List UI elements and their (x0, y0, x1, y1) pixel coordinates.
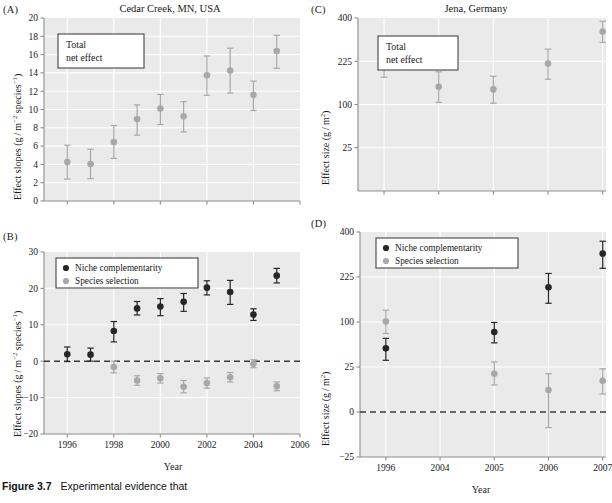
y-tick-label: 25 (345, 362, 355, 372)
data-point (273, 383, 280, 390)
panel-b-ylabel: Effect slopes (g / m−2 species−1) (12, 311, 23, 437)
y-tick-label: −25 (339, 452, 354, 462)
data-point (204, 380, 211, 387)
data-point (250, 360, 257, 367)
legend-item-niche-complementarity-label: Niche complementarity (75, 263, 163, 273)
legend-item-species-selection-label: Species selection (395, 256, 459, 266)
y-tick-label: 400 (338, 13, 353, 23)
data-point (157, 303, 164, 310)
data-point (180, 383, 187, 390)
data-point (491, 329, 498, 336)
y-tick-label: 0 (33, 357, 38, 367)
y-tick-label: 16 (29, 50, 39, 60)
panel-b-tag: (B) (3, 231, 18, 242)
legend: Niche complementaritySpecies selection (56, 258, 198, 288)
data-point (134, 116, 141, 123)
y-tick-label: 10 (29, 320, 39, 330)
legend: Niche complementaritySpecies selection (376, 238, 518, 268)
data-point (273, 272, 280, 279)
data-point (545, 284, 552, 291)
data-point (180, 299, 187, 306)
data-point (87, 351, 94, 358)
data-point (490, 86, 497, 93)
y-tick-label: 25 (343, 143, 353, 153)
data-point (87, 161, 94, 168)
panel-d-xlabel: Year (352, 484, 610, 495)
panel-d-plot: −2502510022540019962004200520062007Niche… (306, 218, 612, 503)
legend-item-niche-complementarity-marker (63, 265, 69, 271)
panel-c-ylabel-text: Effect size (g / m2) (320, 111, 331, 185)
data-point (157, 105, 164, 112)
data-point (599, 28, 606, 35)
data-point (273, 48, 280, 55)
data-point (435, 84, 442, 91)
panel-c: (C) Jena, Germany Effect size (g / m2) 2… (306, 0, 612, 225)
panel-a: (A) Cedar Creek, MN, USA Effect slopes (… (0, 0, 306, 225)
box-label-line1: Total (66, 39, 86, 50)
total-net-effect-box: Totalnet effect (378, 36, 458, 70)
data-point (111, 364, 118, 371)
data-point (383, 318, 390, 325)
y-tick-label: −20 (23, 429, 38, 439)
panel-a-ylabel-text: Effect slopes (g / m−2 species−1) (12, 74, 23, 200)
panel-b-ylabel-text: Effect slopes (g / m−2 species−1) (12, 311, 23, 437)
x-tick-label: 2004 (431, 463, 450, 473)
panel-b-xlabel: Year (44, 461, 302, 472)
y-tick-label: 400 (340, 227, 355, 237)
y-tick-label: 10 (29, 105, 39, 115)
legend-item-niche-complementarity-label: Niche complementarity (395, 243, 483, 253)
x-tick-label: 1996 (58, 440, 77, 450)
data-point (545, 387, 552, 394)
data-point (227, 67, 234, 74)
data-point (491, 371, 498, 378)
y-tick-label: 0 (349, 407, 354, 417)
panel-a-title: Cedar Creek, MN, USA (40, 3, 300, 14)
figure-caption-text: Experimental evidence that (61, 480, 188, 492)
data-point (134, 377, 141, 384)
y-tick-label: 225 (338, 57, 353, 67)
panel-a-ylabel: Effect slopes (g / m−2 species−1) (12, 74, 23, 200)
x-tick-label: 1998 (104, 440, 123, 450)
data-point (599, 378, 606, 385)
legend-item-niche-complementarity-marker (383, 245, 389, 251)
y-tick-label: 14 (29, 68, 39, 78)
box-label-line2: net effect (66, 52, 103, 63)
box-label-line2: net effect (386, 54, 423, 65)
data-point (227, 289, 234, 296)
y-tick-label: 18 (29, 32, 39, 42)
panel-a-tag: (A) (3, 4, 18, 15)
x-tick-label: 2000 (151, 440, 170, 450)
data-point (250, 92, 257, 99)
x-tick-label: 2005 (485, 463, 504, 473)
panel-b-plot: −20−100102030199619982000200220042006Nic… (0, 225, 306, 485)
data-point (111, 328, 118, 335)
data-point (157, 375, 164, 382)
panel-c-tag: (C) (311, 4, 326, 15)
data-point (250, 311, 257, 318)
panel-d: (D) Effect size (g / m2) Year −250251002… (306, 218, 612, 503)
y-tick-label: 20 (29, 13, 39, 23)
legend-item-species-selection-label: Species selection (75, 276, 139, 286)
x-tick-label: 2006 (539, 463, 558, 473)
data-point (64, 159, 71, 166)
data-point (111, 139, 118, 146)
panel-c-ylabel: Effect size (g / m2) (320, 111, 331, 185)
data-point (180, 113, 187, 120)
y-tick-label: 12 (29, 87, 39, 97)
data-point (134, 305, 141, 312)
figure-3-7: (A) Cedar Creek, MN, USA Effect slopes (… (0, 0, 612, 503)
y-tick-label: 100 (338, 100, 353, 110)
x-tick-label: 2004 (244, 440, 263, 450)
data-point (545, 60, 552, 67)
x-tick-label: 1996 (376, 463, 395, 473)
box-label-line1: Total (386, 41, 406, 52)
y-tick-label: 2 (33, 178, 38, 188)
legend-item-species-selection-marker (383, 258, 389, 264)
panel-c-title: Jena, Germany (346, 3, 606, 14)
legend-item-species-selection-marker (63, 278, 69, 284)
data-point (383, 345, 390, 352)
y-tick-label: 8 (33, 123, 38, 133)
panel-c-plot: 25100225400Totalnet effect (306, 0, 612, 225)
figure-caption-label: Figure 3.7 (2, 480, 52, 492)
y-tick-label: −10 (23, 393, 38, 403)
